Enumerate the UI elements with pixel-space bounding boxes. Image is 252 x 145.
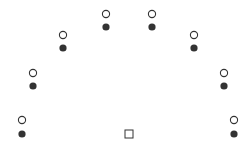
open-circle-icon [59, 31, 66, 38]
marker-pair-3 [59, 31, 66, 51]
open-circle-icon [29, 69, 36, 76]
marker-pair-8 [230, 116, 237, 137]
filled-circle-icon [220, 82, 227, 89]
filled-circle-icon [148, 23, 155, 30]
marker-pair-4 [102, 10, 109, 30]
marker-pair-1 [18, 116, 25, 137]
open-circle-icon [18, 116, 25, 123]
marker-pair-6 [190, 31, 197, 51]
open-circle-icon [102, 10, 109, 17]
filled-circle-icon [18, 130, 25, 137]
open-circle-icon [220, 69, 227, 76]
filled-circle-icon [190, 44, 197, 51]
open-circle-icon [230, 116, 237, 123]
arc-marker-diagram [0, 0, 252, 145]
filled-circle-icon [59, 44, 66, 51]
open-circle-icon [190, 31, 197, 38]
filled-circle-icon [29, 82, 36, 89]
filled-circle-icon [230, 130, 237, 137]
center-square-icon [125, 130, 133, 138]
marker-pair-5 [148, 10, 155, 30]
marker-pair-7 [220, 69, 227, 89]
marker-pair-2 [29, 69, 36, 89]
filled-circle-icon [102, 23, 109, 30]
open-circle-icon [148, 10, 155, 17]
